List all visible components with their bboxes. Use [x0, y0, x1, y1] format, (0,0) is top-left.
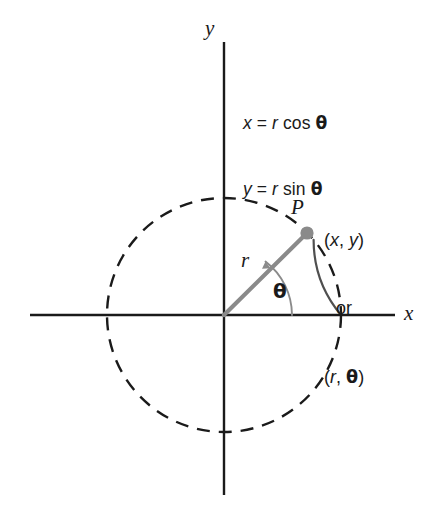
equation-y: y = r sin θ — [243, 177, 327, 202]
figure-canvas — [0, 0, 430, 514]
cartesian-x: x — [330, 230, 339, 250]
radius-label: r — [241, 248, 249, 273]
polar-separator: , — [336, 367, 346, 387]
x-axis-label: x — [404, 301, 413, 326]
equation-x-lhs: x — [243, 113, 252, 133]
point-coordinates-block: (x, y) or (r, θ) — [324, 186, 364, 433]
equation-x-theta: θ — [316, 113, 328, 133]
equation-x: x = r cos θ — [243, 111, 327, 136]
polar-theta: θ — [346, 367, 358, 387]
parametric-equations-block: x = r cos θ y = r sin θ — [243, 70, 327, 244]
equation-x-equals: = — [252, 113, 272, 133]
equation-y-equals: = — [252, 179, 272, 199]
polar-coordinates-figure: y x x = r cos θ y = r sin θ P (x, y) or … — [0, 0, 430, 514]
point-p-label: P — [291, 195, 304, 220]
y-axis-label: y — [205, 16, 214, 41]
equation-x-function: cos — [278, 113, 315, 133]
polar-close-paren: ) — [358, 367, 364, 387]
cartesian-close-paren: ) — [358, 230, 364, 250]
cartesian-y: y — [349, 230, 358, 250]
equation-y-lhs: y — [243, 179, 252, 199]
polar-coordinates: (r, θ) — [324, 365, 364, 391]
coordinates-connector: or — [324, 296, 364, 322]
angle-label: θ — [273, 280, 287, 304]
cartesian-separator: , — [339, 230, 349, 250]
equation-y-theta: θ — [311, 179, 323, 199]
cartesian-coordinates: (x, y) — [324, 228, 364, 254]
